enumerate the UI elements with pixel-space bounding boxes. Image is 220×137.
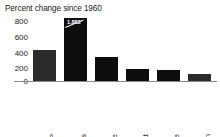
bar-gdp [33,50,56,81]
x-label-population: Population [203,134,212,137]
x-axis-labels: GDP Edible oils Maize Wheat Rice Populat… [30,84,215,137]
bars-layer: 1,883 [30,18,215,81]
bar-population [188,74,211,81]
y-tick-label-600: 600 [2,34,28,42]
plot-area: 800 600 400 200 0 1,883 [0,0,220,137]
x-axis-line [14,81,217,82]
bar-callout-edible-oils: 1,883 [67,19,81,25]
bar-column-edible-oils: 1,883 [64,18,87,81]
bar-column-maize [95,18,118,81]
x-label-wheat: Wheat [141,134,150,137]
bar-chart: Percent change since 1960 800 600 400 20… [0,0,220,137]
x-label-rice: Rice [172,134,181,137]
bar-column-wheat [126,18,149,81]
bar-column-gdp [33,18,56,81]
x-label-gdp: GDP [48,134,57,137]
y-tick-label-200: 200 [2,65,28,73]
x-label-maize: Maize [110,134,119,137]
y-tick-label-800: 800 [2,18,28,26]
y-tick-label-400: 400 [2,50,28,58]
bar-column-population [188,18,211,81]
bar-maize [95,57,118,81]
bar-wheat [126,69,149,81]
x-label-edible-oils: Edible oils [79,134,88,137]
bar-column-rice [157,18,180,81]
bar-edible-oils [64,18,87,81]
bar-rice [157,70,180,81]
